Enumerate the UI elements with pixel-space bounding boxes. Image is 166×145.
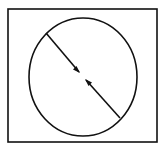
diameter-lower-half [86,80,120,118]
circle [29,18,137,136]
outer-frame [8,9,157,142]
diagram-canvas [0,0,166,145]
diameter-upper-half [46,33,79,72]
